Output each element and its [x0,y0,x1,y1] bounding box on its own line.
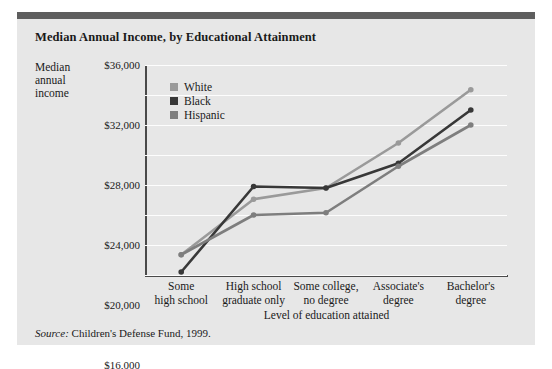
chart-figure: Median Annual Income, by Educational Att… [17,12,535,345]
data-point [468,107,474,113]
y-axis-title: Medianannualincome [35,61,95,100]
data-point [323,185,329,191]
legend-label: White [184,81,212,93]
x-axis-tick-label-line: Bachelor's [416,280,526,294]
legend-swatch-icon [170,97,178,105]
y-axis-tick-label: $32,000 [104,119,140,131]
gridline: $8,000 [145,275,507,276]
series-line-black [181,110,471,272]
data-point [178,252,184,258]
source-note: Source: Children's Defense Fund, 1999. [35,327,211,339]
chart-title: Median Annual Income, by Educational Att… [35,30,316,45]
x-axis-title: Level of education attained [145,309,508,321]
legend-item-hispanic[interactable]: Hispanic [170,108,225,121]
legend-item-black[interactable]: Black [170,94,225,107]
x-axis-tick-label-line: degree [416,294,526,308]
y-axis-tick-label: $36,000 [104,59,140,71]
data-point [323,210,329,216]
source-value: Children's Defense Fund, 1999. [69,327,211,339]
source-label: Source: [35,327,69,339]
y-axis-tick-label: $16,000 [104,359,140,369]
data-point [251,212,257,218]
data-point [468,87,474,93]
legend: WhiteBlackHispanic [170,80,225,122]
legend-swatch-icon [170,83,178,91]
legend-swatch-icon [170,111,178,119]
data-point [251,196,257,202]
data-point [178,269,184,275]
data-point [396,163,402,169]
data-point [251,184,257,190]
legend-item-white[interactable]: White [170,80,225,93]
legend-label: Black [184,95,211,107]
legend-label: Hispanic [184,109,225,121]
y-axis-title-line: Median [35,61,95,74]
y-axis-title-line: annual [35,74,95,87]
y-axis-tick-label: $24,000 [104,239,140,251]
data-point [468,122,474,128]
figure-top-bar [17,12,535,19]
data-point [396,140,402,146]
y-axis-title-line: income [35,87,95,100]
x-axis-tick-label: Bachelor'sdegree [416,280,526,307]
y-axis-tick-label: $28,000 [104,179,140,191]
